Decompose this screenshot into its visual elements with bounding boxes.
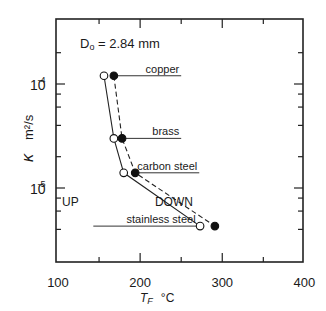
open-circle-marker	[196, 222, 204, 230]
filled-circle-marker	[110, 72, 118, 80]
x-tick-label: 400	[294, 275, 316, 290]
open-circle-marker	[100, 72, 108, 80]
chart: 10020030040010-410-5 copperbrasscarbon s…	[0, 0, 326, 311]
material-label: brass	[152, 125, 179, 137]
axes-border	[56, 19, 303, 262]
diameter-annotation: Do = 2.84 mm	[80, 36, 160, 52]
y-axis-label: κm²/s	[19, 114, 36, 162]
open-circle-marker	[120, 169, 128, 177]
x-tick-label: 200	[129, 275, 151, 290]
x-tick-label: 100	[47, 275, 69, 290]
x-tick-label: 300	[211, 275, 233, 290]
material-label: carbon steel	[137, 160, 197, 172]
plot-area: 10020030040010-410-5 copperbrasscarbon s…	[0, 0, 326, 311]
material-label: stainless steel	[127, 213, 196, 225]
filled-circle-marker	[118, 135, 126, 143]
series-label-down: DOWN	[155, 195, 193, 209]
axes-frame	[56, 19, 303, 262]
x-axis-label: TF°C	[140, 291, 175, 306]
tick-labels: 10020030040010-410-5	[30, 75, 315, 290]
y-tick-label: 10-4	[30, 75, 46, 93]
filled-circle-marker	[211, 222, 219, 230]
series-label-up: UP	[62, 195, 79, 209]
axis-ticks	[56, 19, 303, 262]
y-tick-label: 10-5	[30, 179, 46, 197]
open-circle-marker	[110, 135, 118, 143]
material-label: copper	[146, 63, 180, 75]
